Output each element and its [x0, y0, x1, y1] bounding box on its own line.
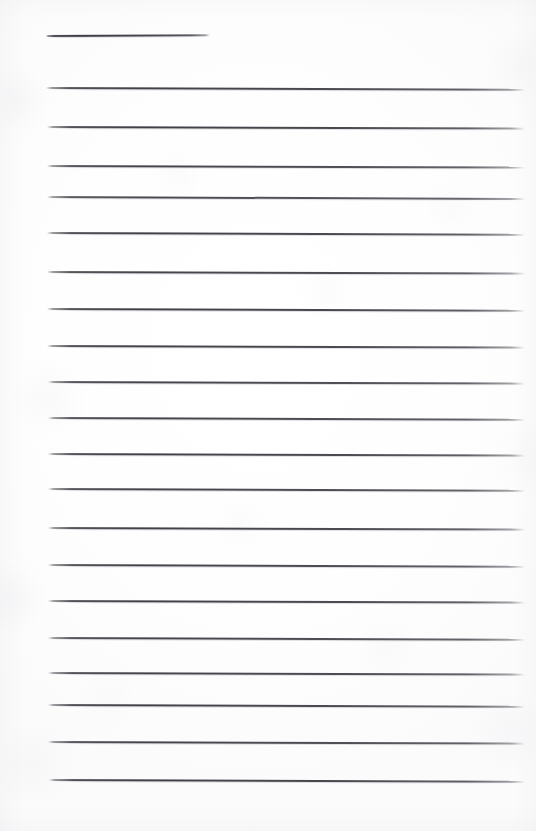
ruled-line [48, 453, 525, 457]
ruled-line [48, 527, 525, 531]
ruled-line [47, 165, 525, 169]
ruled-line [49, 779, 525, 783]
ruled-line [48, 417, 525, 421]
ruled-line [47, 196, 525, 200]
ruled-line [48, 381, 525, 385]
ruled-line [47, 232, 525, 236]
ruled-line [47, 308, 525, 312]
ruled-line [48, 637, 525, 641]
ruled-line [47, 271, 525, 275]
ruled-line [47, 345, 525, 349]
scanned-page [0, 0, 536, 831]
ruled-line [47, 126, 525, 130]
ruled-line [46, 87, 525, 91]
ruled-line [48, 600, 525, 604]
ruled-line [48, 741, 525, 745]
ruled-line [48, 488, 525, 492]
ruled-line [46, 34, 210, 37]
ruled-line [48, 672, 525, 676]
ruled-line [48, 564, 525, 568]
ruled-line [48, 704, 525, 708]
